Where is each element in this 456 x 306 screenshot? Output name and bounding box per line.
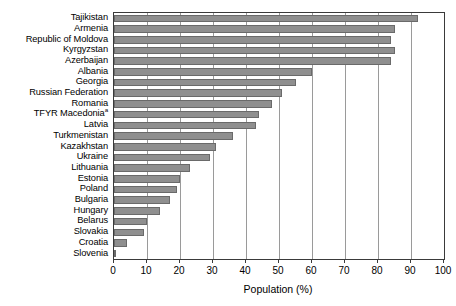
x-tick-mark <box>377 259 378 263</box>
bar <box>114 143 216 151</box>
bar-row <box>114 109 444 120</box>
bar <box>114 89 282 97</box>
x-tick-mark <box>212 259 213 263</box>
bar-row <box>114 66 444 77</box>
bar-row <box>114 99 444 110</box>
bar-row <box>114 34 444 45</box>
bar-row <box>114 173 444 184</box>
bar <box>114 229 144 237</box>
category-label: Russian Federation <box>0 87 108 98</box>
category-label: Kazakhstan <box>0 141 108 152</box>
category-label: Belarus <box>0 215 108 226</box>
bar <box>114 68 312 76</box>
plot-area <box>113 12 445 260</box>
category-label: Slovenia <box>0 248 108 259</box>
bar <box>114 79 296 87</box>
bar-row <box>114 13 444 24</box>
x-tick-mark <box>311 259 312 263</box>
category-label: Croatia <box>0 237 108 248</box>
bar-row <box>114 24 444 35</box>
bar <box>114 132 233 140</box>
x-tick-mark <box>146 259 147 263</box>
bar-row <box>114 88 444 99</box>
category-label: Lithuania <box>0 162 108 173</box>
bar-row <box>114 45 444 56</box>
category-label: Turkmenistan <box>0 130 108 141</box>
bar <box>114 122 256 130</box>
category-label: Bulgaria <box>0 194 108 205</box>
bar <box>114 239 127 247</box>
category-label: Azerbaijan <box>0 55 108 66</box>
bar-row <box>114 206 444 217</box>
bar-row <box>114 184 444 195</box>
bar <box>114 15 418 23</box>
category-label: Albania <box>0 66 108 77</box>
bar-row <box>114 141 444 152</box>
category-label: Kyrgyzstan <box>0 44 108 55</box>
bar-row <box>114 131 444 142</box>
bar-row <box>114 216 444 227</box>
bar-row <box>114 56 444 67</box>
bar-row <box>114 77 444 88</box>
category-label: TFYR Macedoniaa <box>0 108 108 119</box>
category-label: Estonia <box>0 173 108 184</box>
bar <box>114 111 259 119</box>
bar <box>114 250 116 258</box>
footnote-marker: a <box>105 106 108 113</box>
bar-row <box>114 248 444 259</box>
bar-row <box>114 120 444 131</box>
bar <box>114 196 170 204</box>
category-label: Slovakia <box>0 226 108 237</box>
bar <box>114 207 160 215</box>
bar <box>114 47 395 55</box>
x-tick-mark <box>113 259 114 263</box>
x-axis-title: Population (%) <box>113 283 443 295</box>
category-label: Armenia <box>0 23 108 34</box>
bar <box>114 175 180 183</box>
bar-row <box>114 152 444 163</box>
category-label: Latvia <box>0 119 108 130</box>
category-label: Republic of Moldova <box>0 34 108 45</box>
bar <box>114 25 395 33</box>
category-label: Ukraine <box>0 151 108 162</box>
x-tick-mark <box>245 259 246 263</box>
x-tick-mark <box>443 259 444 263</box>
bar <box>114 164 190 172</box>
bar-row <box>114 238 444 249</box>
category-label: Hungary <box>0 205 108 216</box>
bar-row <box>114 163 444 174</box>
x-tick-mark <box>344 259 345 263</box>
bar <box>114 36 391 44</box>
category-label: Tajikistan <box>0 12 108 23</box>
category-axis-labels: TajikistanArmeniaRepublic of MoldovaKyrg… <box>0 12 108 258</box>
bar <box>114 100 272 108</box>
x-tick-label: 100 <box>423 265 456 277</box>
bar <box>114 218 147 226</box>
x-tick-mark <box>179 259 180 263</box>
category-label: Georgia <box>0 76 108 87</box>
category-label: Poland <box>0 183 108 194</box>
bar <box>114 154 210 162</box>
bar <box>114 57 391 65</box>
bar-row <box>114 227 444 238</box>
bar <box>114 186 177 194</box>
x-tick-mark <box>278 259 279 263</box>
bar-row <box>114 195 444 206</box>
x-tick-mark <box>410 259 411 263</box>
